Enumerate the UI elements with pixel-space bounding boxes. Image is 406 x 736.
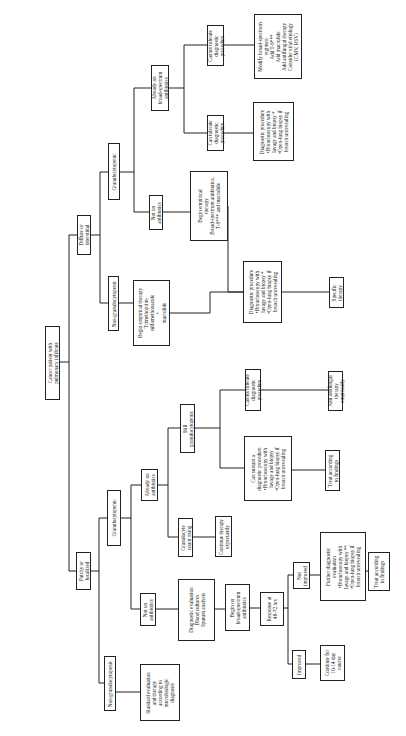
- node-treat-according-1: Treat according to findings: [325, 450, 340, 491]
- node-continue-10-14-days: Continue for 10-14 day course: [320, 645, 345, 681]
- node-label: Granulocytopenic: [111, 499, 117, 536]
- node-diffuse-not-on-antibiotics: Not on antibiotics: [149, 195, 163, 230]
- node-still-granulocytopenic: Still granulocytopenic: [180, 404, 195, 453]
- node-diagnostic-procedure-mid: Diagnostic procedure •Bronchoscopy with …: [243, 261, 282, 323]
- node-diagnostic-procedure-top: Diagnostic procedure •Bronchoscopy with …: [253, 102, 294, 161]
- node-label: Can sustain a diagnostic procedure •Bron…: [250, 447, 286, 491]
- node-patchy-non-granulocytopenic: Non-granulocytopenic: [104, 656, 116, 711]
- node-label: Add antifungal therapy empirically: [327, 375, 345, 406]
- node-label: Diagnostic evaluation Blood cultures Spu…: [188, 587, 206, 632]
- node-begin-empirical-tmp: Begin empirical therapy Trimethoprim- su…: [133, 280, 170, 346]
- node-treat-according-2: Treat according to findings: [368, 552, 390, 591]
- node-label: Specific therapy: [331, 284, 343, 301]
- node-begin-on-broad-spectrum: Begin on broad-spectrum antibiotics: [225, 584, 250, 631]
- node-label: Response at 48-72 hrs: [266, 597, 278, 622]
- node-label: Not improved: [296, 566, 308, 586]
- node-label: Already on antibiotics: [144, 473, 156, 496]
- node-label: Diagnostic procedure •Bronchoscopy with …: [259, 109, 289, 154]
- node-label: Granulocytopenic: [111, 153, 117, 190]
- node-label: Can tolerate diagnostic procedure: [207, 120, 225, 145]
- node-patchy-cannot-tolerate: Cannot tolerate diagnostic procedure: [245, 369, 261, 411]
- flowchart-canvas: Cancer patient with pulmonary infiltrate…: [0, 0, 406, 736]
- node-response-48-72: Response at 48-72 hrs: [260, 592, 284, 626]
- node-label: Already on broad-spectrum antibiotics: [151, 72, 169, 105]
- node-label: Treat according to findings: [327, 454, 339, 487]
- node-label: Diffuse or interstitial: [78, 224, 90, 245]
- node-label: Not on antibiotics: [150, 202, 162, 224]
- node-diffuse-granulocytopenic: Granulocytopenic: [108, 143, 120, 200]
- node-patchy-not-on-antibiotics: Not on antibiotics: [140, 593, 156, 626]
- node-label: Non-granulocytopenic: [107, 660, 113, 707]
- node-standard-evaluation: Standard evaluation and therapy accordin…: [140, 664, 180, 721]
- node-label: Begin empirical therapy Broad-spectrum a…: [197, 177, 221, 235]
- node-modify-regimen: Modify broad-spectrum regimen Add T-S***…: [254, 14, 302, 79]
- node-label: Continue therapy expectantly: [218, 519, 230, 555]
- node-label: Begin empirical therapy Trimethoprim- su…: [137, 288, 167, 338]
- node-patchy-granulocytopenic: Granulocytopenic: [107, 490, 121, 546]
- node-not-improved: Not improved: [293, 562, 310, 589]
- node-label: Cancer patient with pulmonary infiltrate: [47, 342, 59, 384]
- node-label: Continue for 10-14 day course: [324, 650, 342, 676]
- node-patchy-localized: Patchy or localized: [76, 552, 91, 590]
- node-diagnostic-evaluation: Diagnostic evaluation Blood cultures Spu…: [178, 579, 215, 641]
- node-improved: Improved: [292, 650, 306, 679]
- node-add-antifungal: Add antifungal therapy empirically: [328, 371, 343, 411]
- node-patchy-already-on-antibiotics: Already on antibiotics: [141, 469, 158, 501]
- node-diffuse-non-granulocytopenic: Non-granulocytopenic: [108, 276, 119, 331]
- node-diffuse-cannot-tolerate: Cannot tolerate diagnostic procedure: [207, 25, 224, 66]
- node-label: Still granulocytopenic: [182, 410, 194, 446]
- node-label: Improved: [296, 654, 302, 674]
- node-label: Begin on broad-spectrum antibiotics: [229, 591, 247, 624]
- node-label: Diagnostic procedure •Bronchoscopy with …: [248, 270, 278, 315]
- node-label: Non-granulocytopenic: [111, 280, 117, 327]
- node-granulocyte-count-rising: Granulocyte count rising: [178, 518, 193, 557]
- node-diffuse-interstitial: Diffuse or interstitial: [77, 215, 91, 255]
- node-label: Modify broad-spectrum regimen Add T-S***…: [257, 22, 299, 71]
- node-label: Cannot tolerate diagnostic procedure: [207, 30, 225, 62]
- node-diffuse-can-tolerate: Can tolerate diagnostic procedure: [207, 115, 224, 151]
- node-begin-empirical-broad: Begin empirical therapy Broad-spectrum a…: [190, 171, 228, 241]
- node-label: Granulocyte count rising: [180, 525, 192, 551]
- node-further-diagnostic: Further diagnostic evaluation •Bronchosc…: [320, 532, 366, 601]
- node-label: Patchy or localized: [78, 561, 90, 581]
- node-can-sustain-procedure: Can sustain a diagnostic procedure •Bron…: [244, 436, 292, 501]
- node-specific-therapy: Specific therapy: [329, 277, 344, 308]
- node-label: Treat according to findings: [373, 555, 385, 588]
- node-label: Further diagnostic evaluation •Bronchosc…: [325, 545, 361, 589]
- node-label: Not on antibiotics: [142, 599, 154, 621]
- node-already-on-broad-spectrum: Already on broad-spectrum antibiotics: [151, 65, 169, 111]
- node-continue-therapy: Continue therapy expectantly: [215, 516, 232, 557]
- node-label: Standard evaluation and therapy accordin…: [145, 672, 175, 713]
- node-label: Cannot tolerate diagnostic procedure: [244, 374, 262, 406]
- node-root: Cancer patient with pulmonary infiltrate: [45, 326, 60, 400]
